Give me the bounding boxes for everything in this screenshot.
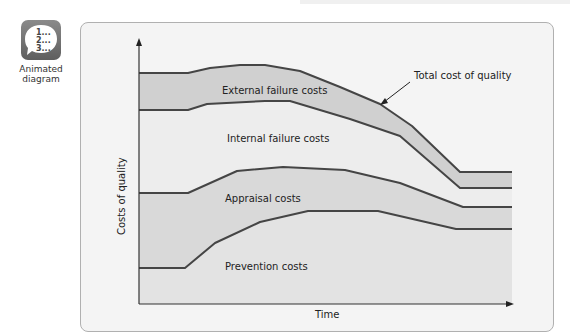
x-axis-label: Time bbox=[314, 309, 339, 318]
total-cost-pointer bbox=[384, 82, 410, 102]
y-axis-arrow-icon bbox=[136, 38, 142, 46]
total-cost-label: Total cost of quality bbox=[413, 70, 512, 81]
appraisal-label: Appraisal costs bbox=[225, 193, 301, 204]
external-failure-label: External failure costs bbox=[222, 85, 327, 96]
total-cost-arrow-icon bbox=[380, 98, 388, 105]
y-axis-label: Costs of quality bbox=[116, 157, 127, 235]
prevention-label: Prevention costs bbox=[225, 261, 308, 272]
internal-failure-label: Internal failure costs bbox=[227, 133, 329, 144]
